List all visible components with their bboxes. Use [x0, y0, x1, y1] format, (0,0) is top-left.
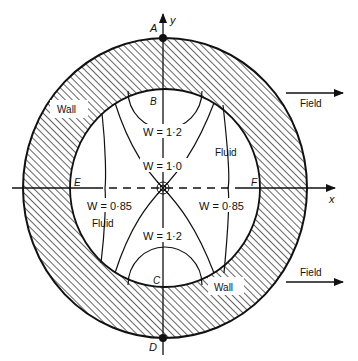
field-label-top: Field: [300, 98, 322, 109]
point-c-label: C: [153, 275, 161, 286]
wall-label-top: Wall: [57, 104, 76, 115]
x-axis-label: x: [328, 193, 335, 205]
y-axis-label: y: [169, 14, 177, 26]
contour-label-bottom: W = 1·2: [143, 230, 182, 242]
contour-label-top: W = 1·2: [143, 126, 182, 138]
fluid-label-right: Fluid: [215, 147, 237, 158]
point-d-label: D: [149, 341, 157, 353]
point-f-label: F: [251, 177, 258, 188]
contour-label-left: W = 0·85: [87, 200, 132, 212]
point-a-dot: [159, 34, 167, 42]
point-a-label: A: [149, 22, 157, 34]
point-b-label: B: [150, 96, 157, 107]
field-label-bottom: Field: [300, 267, 322, 278]
fluid-label-left: Fluid: [92, 218, 114, 229]
diagram-canvas: A y B C D E F x Wall Wall Fluid Fluid Fi…: [0, 0, 358, 361]
contour-label-middle: W = 1·0: [143, 160, 182, 172]
point-d-dot: [159, 334, 167, 342]
wall-label-bottom: Wall: [214, 282, 233, 293]
contour-label-right: W = 0·85: [199, 200, 244, 212]
point-e-label: E: [74, 177, 81, 188]
